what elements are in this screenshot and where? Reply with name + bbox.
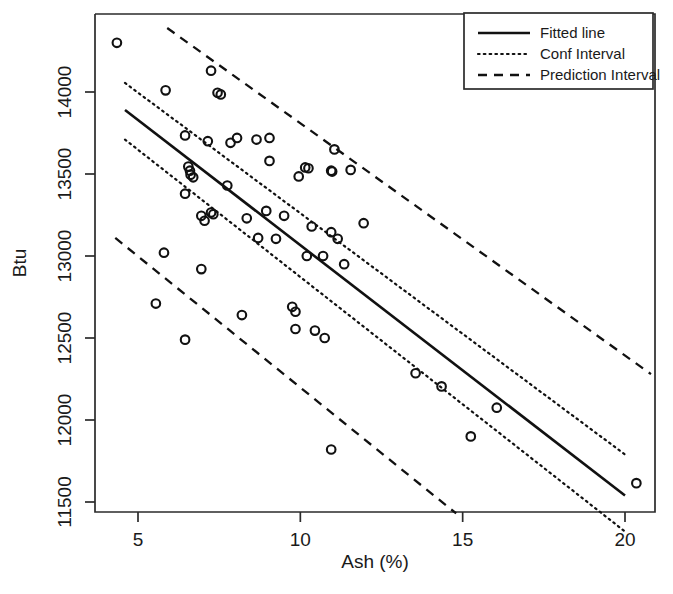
x-tick-label: 10 <box>290 529 311 550</box>
y-tick-label: 11500 <box>54 476 75 527</box>
data-point <box>359 219 368 228</box>
y-tick-label: 13500 <box>54 148 75 201</box>
data-point <box>197 265 206 274</box>
y-axis-ticks: 115001200012500130001350014000 <box>54 66 95 528</box>
y-tick-label: 12000 <box>54 394 75 447</box>
data-point <box>265 157 274 166</box>
data-point <box>207 66 216 75</box>
data-point <box>294 172 303 181</box>
x-tick-label: 5 <box>133 529 144 550</box>
data-point <box>152 299 161 308</box>
data-point <box>181 335 190 344</box>
data-point <box>160 248 169 257</box>
y-tick-label: 14000 <box>54 66 75 119</box>
data-point <box>466 432 475 441</box>
legend: Fitted lineConf IntervalPrediction Inter… <box>464 13 660 89</box>
x-axis-ticks: 5101520 <box>133 512 636 550</box>
data-point <box>238 311 247 320</box>
data-point <box>303 252 312 261</box>
legend-label: Fitted line <box>540 24 605 41</box>
data-point <box>254 234 263 243</box>
data-point <box>411 369 420 378</box>
legend-label: Prediction Interval <box>540 66 660 83</box>
data-point <box>265 134 274 143</box>
data-point <box>113 39 122 48</box>
data-point <box>311 326 320 335</box>
data-point <box>632 479 641 488</box>
y-tick-label: 13000 <box>54 230 75 283</box>
data-point <box>307 222 316 231</box>
data-point <box>319 252 328 261</box>
data-point <box>346 166 355 175</box>
conf-interval-upper-line <box>125 83 625 454</box>
data-point <box>272 234 281 243</box>
data-point <box>291 325 300 334</box>
data-point <box>226 139 235 148</box>
x-tick-label: 20 <box>614 529 635 550</box>
data-point <box>181 131 190 140</box>
data-point <box>280 212 289 221</box>
data-point <box>492 403 501 412</box>
plot-canvas: 5101520 115001200012500130001350014000 A… <box>0 0 673 594</box>
data-point <box>320 334 329 343</box>
x-axis-title: Ash (%) <box>341 551 409 572</box>
prediction-interval-lower-line <box>115 238 456 514</box>
y-axis-title: Btu <box>9 249 30 278</box>
data-point <box>340 260 349 269</box>
data-point <box>242 214 251 223</box>
legend-label: Conf Interval <box>540 45 625 62</box>
data-point <box>252 135 261 144</box>
conf-interval-lower-line <box>125 140 625 532</box>
data-point <box>327 445 336 454</box>
x-tick-label: 15 <box>452 529 473 550</box>
data-point <box>262 207 271 216</box>
regression-lines <box>115 28 651 531</box>
y-tick-label: 12500 <box>54 312 75 365</box>
data-point <box>161 86 170 95</box>
data-point <box>181 189 190 198</box>
scatter-points <box>113 39 641 488</box>
chart-figure: 5101520 115001200012500130001350014000 A… <box>0 0 673 594</box>
